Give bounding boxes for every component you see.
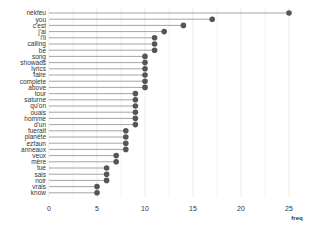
x-tick-label: 10	[141, 205, 149, 212]
lollipop-dot	[133, 109, 139, 115]
lollipop-dot	[142, 60, 148, 66]
lollipop-dot	[209, 16, 215, 22]
lollipop-dot	[104, 171, 110, 177]
lollipop-dot	[142, 78, 148, 84]
lollipop-dot	[142, 66, 148, 72]
lollipop-dot	[152, 41, 158, 47]
lollipop-dot	[123, 147, 129, 153]
lollipop-dot	[161, 29, 167, 35]
x-tick-label: 25	[285, 205, 293, 212]
lollipop-dot	[104, 178, 110, 184]
x-tick-label: 0	[47, 205, 51, 212]
lollipop-dot	[113, 153, 119, 159]
lollipop-dot	[123, 128, 129, 134]
x-axis-label: freq	[291, 215, 303, 221]
lollipop-dot	[133, 116, 139, 122]
lollipop-dot	[113, 159, 119, 165]
lollipop-dot	[123, 134, 129, 140]
lollipop-dot	[133, 103, 139, 109]
lollipop-dot	[133, 97, 139, 103]
lollipop-dot	[142, 72, 148, 78]
lollipop-dot	[181, 23, 187, 29]
lollipop-dot	[94, 184, 100, 190]
lollipop-dot	[133, 122, 139, 128]
lollipop-dot	[104, 165, 110, 171]
x-tick-label: 20	[237, 205, 245, 212]
lollipop-dot	[123, 140, 129, 146]
x-tick-label: 5	[95, 205, 99, 212]
category-label: know	[31, 189, 46, 196]
lollipop-dot	[152, 35, 158, 41]
lollipop-dot	[94, 190, 100, 196]
lollipop-dot	[286, 10, 292, 16]
x-tick-label: 15	[189, 205, 197, 212]
lollipop-dot	[152, 47, 158, 53]
lollipop-dot	[142, 54, 148, 60]
lollipop-dot	[133, 91, 139, 97]
lollipop-chart: 0510152025freqnekfeuyouc'estj'aii'llcall…	[0, 0, 310, 231]
chart-canvas: 0510152025freqnekfeuyouc'estj'aii'llcall…	[0, 0, 310, 231]
lollipop-dot	[142, 85, 148, 91]
